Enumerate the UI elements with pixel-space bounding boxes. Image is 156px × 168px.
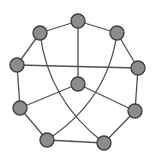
node-top (71, 14, 85, 28)
node-bottom-left (40, 133, 54, 147)
node-lower-right (128, 104, 142, 118)
edge-center-lower-right (78, 84, 135, 111)
node-center (71, 77, 85, 91)
node-left (10, 58, 24, 72)
edge-bottom-left-bottom-right (47, 140, 104, 143)
node-right (131, 61, 145, 75)
node-lower-left (13, 101, 27, 115)
node-upper-right (110, 26, 124, 40)
node-bottom-right (97, 136, 111, 150)
node-upper-left (33, 26, 47, 40)
edge-center-lower-left (20, 84, 78, 108)
graph-diagram (0, 0, 156, 168)
